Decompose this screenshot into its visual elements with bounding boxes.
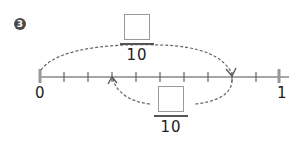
top-arrowhead-icon	[226, 68, 236, 76]
top-fraction: 10	[119, 14, 155, 63]
end-mark	[278, 69, 281, 83]
bottom-denominator: 10	[160, 120, 181, 135]
bottom-fraction-bar	[154, 115, 188, 117]
end-label: 1	[277, 86, 287, 101]
top-numerator-answer-box[interactable]	[124, 14, 150, 40]
start-mark	[39, 69, 42, 83]
number-line-diagram: 3 0 1 10	[0, 0, 304, 148]
bottom-fraction: 10	[153, 86, 189, 135]
bottom-numerator-answer-box[interactable]	[158, 86, 184, 112]
top-denominator: 10	[126, 48, 147, 63]
top-fraction-bar	[120, 43, 154, 45]
start-label: 0	[35, 86, 45, 101]
